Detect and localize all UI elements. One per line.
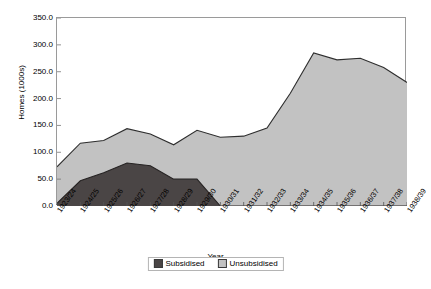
legend-label-unsubsidised: Unsubsidised: [230, 259, 278, 268]
legend-item-unsubsidised[interactable]: Unsubsidised: [218, 259, 278, 268]
chart-container: Homes (1000s) 350.0300.0250.0200.0150.01…: [0, 0, 431, 289]
y-tick-label: 0.0: [42, 201, 53, 210]
chart-legend: Subsidised Unsubsidised: [147, 257, 283, 271]
y-tick-label: 350.0: [33, 13, 53, 22]
x-tick-label: 1938/39: [405, 187, 428, 214]
legend-swatch-unsubsidised: [218, 259, 227, 268]
y-axis-tick-labels: 350.0300.0250.0200.0150.0100.050.00.0: [0, 0, 53, 289]
y-tick-label: 50.0: [37, 174, 53, 183]
y-tick-label: 200.0: [33, 93, 53, 102]
area-series-svg: [57, 18, 407, 206]
y-tick-label: 250.0: [33, 66, 53, 75]
legend-swatch-subsidised: [153, 259, 162, 268]
legend-item-subsidised[interactable]: Subsidised: [153, 259, 204, 268]
legend-label-subsidised: Subsidised: [165, 259, 204, 268]
y-tick-label: 300.0: [33, 39, 53, 48]
y-tick-label: 100.0: [33, 147, 53, 156]
plot-area: [56, 17, 406, 205]
y-tick-label: 150.0: [33, 120, 53, 129]
